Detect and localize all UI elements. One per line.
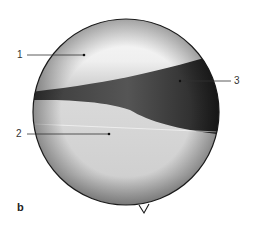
arthroscopic-image <box>0 0 253 229</box>
label-1: 1 <box>17 50 23 60</box>
label-2: 2 <box>16 129 22 139</box>
label-3: 3 <box>234 76 240 86</box>
panel-letter: b <box>17 201 24 213</box>
